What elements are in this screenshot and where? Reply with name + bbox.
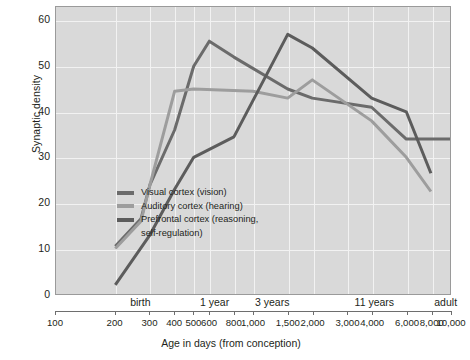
x-axis-tick-mark xyxy=(115,311,116,315)
stage-label: adult xyxy=(406,296,470,311)
legend-item-visual-cortex: Visual cortex (vision) xyxy=(117,186,258,199)
x-axis-tick-label: 100 xyxy=(47,317,63,328)
x-axis-tick-label: 6,000 xyxy=(395,317,419,328)
stage-label: birth xyxy=(100,296,180,311)
legend-label-prefrontal-cortex: Prefrontal cortex (reasoning, self-regul… xyxy=(141,213,258,239)
legend-item-prefrontal-cortex: Prefrontal cortex (reasoning, self-regul… xyxy=(117,213,258,239)
x-axis-tick-mark xyxy=(55,311,56,315)
stage-label: 3 years xyxy=(232,296,312,311)
x-axis-tick-mark xyxy=(451,311,452,315)
x-axis-tick-label: 500 xyxy=(185,317,201,328)
x-axis-tick-label: 3,000 xyxy=(335,317,359,328)
x-axis-tick-label: 400 xyxy=(166,317,182,328)
x-axis-tick-mark xyxy=(313,311,314,315)
legend-item-auditory-cortex: Auditory cortex (hearing) xyxy=(117,200,258,213)
y-axis-tick-label: 50 xyxy=(10,59,50,71)
x-axis-tick-mark xyxy=(372,311,373,315)
x-axis-tick-label: 800 xyxy=(226,317,242,328)
x-axis-tick-label: 600 xyxy=(201,317,217,328)
x-axis-tick-mark xyxy=(347,311,348,315)
legend-label-auditory-cortex: Auditory cortex (hearing) xyxy=(141,200,243,213)
x-axis-tick-mark xyxy=(149,311,150,315)
x-axis-tick-mark xyxy=(432,311,433,315)
x-axis-tick-label: 2,000 xyxy=(301,317,325,328)
y-axis-tick-label: 0 xyxy=(10,288,50,300)
x-axis-title: Age in days (from conception) xyxy=(0,337,462,349)
x-axis-tick-mark xyxy=(209,311,210,315)
x-axis-tick-label: 1,000 xyxy=(241,317,265,328)
y-axis-tick-label: 30 xyxy=(10,150,50,162)
x-axis-tick-mark xyxy=(288,311,289,315)
series-lines xyxy=(56,7,450,294)
x-axis-tick-mark xyxy=(253,311,254,315)
x-axis-tick-label: 1,500 xyxy=(276,317,300,328)
x-axis-tick-mark xyxy=(193,311,194,315)
x-axis-tick-label: 4,000 xyxy=(360,317,384,328)
y-axis-tick-label: 40 xyxy=(10,105,50,117)
x-axis-tick-label: 300 xyxy=(141,317,157,328)
y-axis-tick-label: 20 xyxy=(10,196,50,208)
stage-label: 11 years xyxy=(334,296,414,311)
x-axis-tick-mark xyxy=(234,311,235,315)
y-axis-tick-label: 60 xyxy=(10,13,50,25)
legend-swatch-prefrontal-cortex xyxy=(117,218,134,222)
x-axis-tick-mark xyxy=(407,311,408,315)
legend-label-visual-cortex: Visual cortex (vision) xyxy=(141,186,227,199)
x-axis-tick-label: 200 xyxy=(107,317,123,328)
x-axis-tick-label: 10,000 xyxy=(436,317,465,328)
x-axis-tick-mark xyxy=(174,311,175,315)
y-axis-tick-label: 10 xyxy=(10,242,50,254)
legend-swatch-visual-cortex xyxy=(117,191,134,195)
plot-area xyxy=(55,6,451,295)
legend: Visual cortex (vision) Auditory cortex (… xyxy=(117,186,258,240)
legend-swatch-auditory-cortex xyxy=(117,204,134,208)
